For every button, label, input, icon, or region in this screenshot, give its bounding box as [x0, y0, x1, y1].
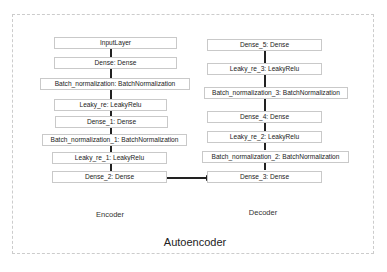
encoder-layer-dense1: Dense_1: Dense: [55, 116, 168, 128]
encoder-connector: [110, 69, 112, 78]
encoder-label: Encoder: [80, 210, 140, 219]
diagram-title: Autoencoder: [145, 236, 245, 248]
decoder-label: Decoder: [233, 208, 293, 217]
encoder-layer-batchnorm1: Batch_normalization_1: BatchNormalizatio…: [42, 134, 187, 146]
decoder-connector: [264, 51, 266, 63]
decoder-layer-dense5: Dense_5: Dense: [207, 39, 322, 51]
encoder-connector: [110, 164, 112, 171]
decoder-layer-dense4: Dense_4: Dense: [207, 111, 322, 123]
encoder-layer-leaky: Leaky_re: LeakyRelu: [54, 99, 167, 111]
decoder-layer-dense3: Dense_3: Dense: [207, 171, 322, 183]
decoder-layer-leaky2: Leaky_re_2: LeakyRelu: [207, 131, 322, 143]
decoder-connector: [264, 99, 266, 111]
encoder-layer-dense2: Dense_2: Dense: [52, 171, 167, 183]
encoder-layer-dense: Dense: Dense: [54, 57, 177, 69]
encoder-layer-batchnorm: Batch_normalization: BatchNormalization: [40, 78, 190, 90]
encoder-layer-leaky1: Leaky_re_1: LeakyRelu: [52, 152, 167, 164]
decoder-layer-batchnorm3: Batch_normalization_3: BatchNormalizatio…: [204, 87, 348, 99]
decoder-connector: [264, 143, 266, 150]
encoder-layer-input: InputLayer: [54, 37, 177, 49]
decoder-connector: [264, 163, 266, 170]
encoder-connector: [110, 90, 112, 99]
decoder-layer-leaky3: Leaky_re_3: LeakyRelu: [207, 63, 322, 75]
encoder-to-decoder-arrow: [167, 177, 207, 179]
decoder-layer-batchnorm2: Batch_normalization_2: BatchNormalizatio…: [202, 151, 349, 163]
decoder-connector: [264, 75, 266, 87]
encoder-connector: [110, 49, 112, 57]
